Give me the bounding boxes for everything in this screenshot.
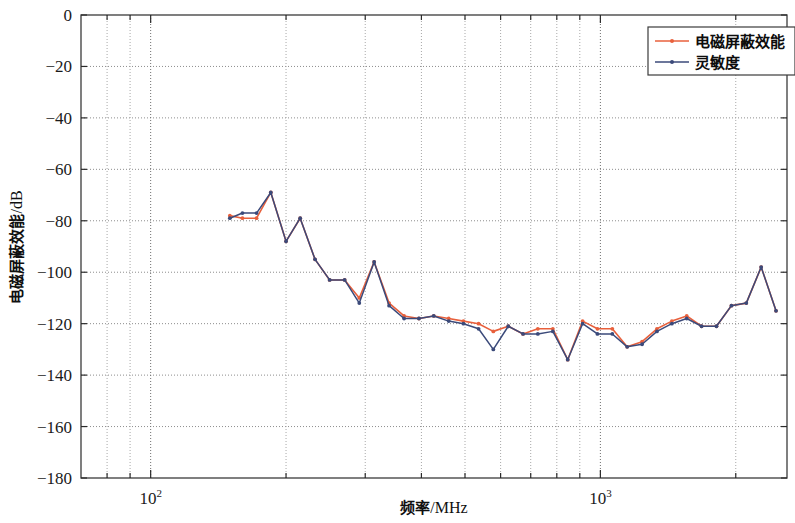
data-point — [432, 314, 436, 318]
data-point — [655, 329, 659, 333]
data-point — [610, 327, 614, 331]
y-axis-title-unit: /dB — [8, 190, 25, 213]
data-point — [269, 191, 273, 195]
legend-item-label: 电磁屏蔽效能 — [695, 33, 785, 51]
data-point — [700, 324, 704, 328]
data-point — [491, 329, 495, 333]
data-point — [596, 327, 600, 331]
data-point — [536, 332, 540, 336]
data-point — [228, 216, 232, 220]
y-tick-label: −160 — [37, 418, 72, 437]
data-point — [685, 317, 689, 321]
data-point — [536, 327, 540, 331]
y-tick-label: −180 — [37, 469, 72, 488]
data-point — [343, 278, 347, 282]
legend-swatch-marker — [670, 60, 674, 64]
chart-figure: 0−20−40−60−80−100−120−140−160−180 102103… — [0, 0, 795, 523]
y-tick-label: −80 — [45, 212, 72, 231]
y-tick-label: 0 — [64, 6, 73, 25]
data-point — [328, 278, 332, 282]
data-point — [551, 329, 555, 333]
data-point — [241, 211, 245, 215]
x-axis-title: 频率/MHz — [400, 499, 467, 517]
data-point — [491, 347, 495, 351]
y-tick-label: −60 — [45, 160, 72, 179]
data-point — [774, 309, 778, 313]
data-point — [566, 358, 570, 362]
legend-item-label: 灵敏度 — [695, 54, 741, 72]
data-point — [670, 322, 674, 326]
data-point — [255, 211, 259, 215]
data-point — [715, 324, 719, 328]
x-axis-title-main: 频率 — [400, 499, 430, 517]
data-point — [447, 319, 451, 323]
data-point — [313, 257, 317, 261]
y-tick-label: −120 — [37, 315, 72, 334]
data-point — [759, 265, 763, 269]
y-tick-label: −140 — [37, 366, 72, 385]
data-point — [610, 332, 614, 336]
data-point — [387, 304, 391, 308]
data-point — [521, 332, 525, 336]
y-axis-title: 电磁屏蔽效能/dB — [8, 190, 26, 303]
chart-background — [0, 0, 795, 523]
x-axis-title-unit: /MHz — [430, 499, 467, 516]
data-point — [506, 324, 510, 328]
data-point — [255, 216, 259, 220]
y-tick-label: −100 — [37, 263, 72, 282]
data-point — [477, 327, 481, 331]
svg-text:频率/MHz: 频率/MHz — [400, 499, 467, 517]
data-point — [625, 345, 629, 349]
emi-shielding-effectiveness-chart: 0−20−40−60−80−100−120−140−160−180 102103… — [0, 0, 795, 523]
data-point — [477, 322, 481, 326]
data-point — [596, 332, 600, 336]
y-axis-title-main: 电磁屏蔽效能 — [8, 214, 26, 304]
data-point — [744, 301, 748, 305]
data-point — [284, 239, 288, 243]
data-point — [730, 304, 734, 308]
data-point — [402, 317, 406, 321]
data-point — [462, 322, 466, 326]
data-point — [357, 301, 361, 305]
y-tick-label: −40 — [45, 109, 72, 128]
data-point — [372, 260, 376, 264]
data-point — [241, 216, 245, 220]
y-tick-label: −20 — [45, 57, 72, 76]
svg-text:电磁屏蔽效能/dB: 电磁屏蔽效能/dB — [8, 190, 26, 303]
legend-swatch-marker — [670, 39, 674, 43]
chart-legend: 电磁屏蔽效能灵敏度 — [648, 27, 795, 75]
data-point — [298, 216, 302, 220]
data-point — [640, 342, 644, 346]
data-point — [581, 322, 585, 326]
data-point — [417, 317, 421, 321]
